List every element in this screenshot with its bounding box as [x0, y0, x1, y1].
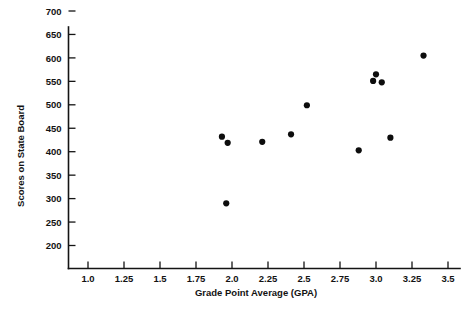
y-axis-tick-label: 550 [46, 76, 62, 87]
y-axis-tick-label: 500 [46, 99, 62, 110]
data-point [420, 52, 426, 58]
x-axis-tick-label: 1.25 [115, 273, 134, 284]
y-axis-tick-label: 700 [46, 6, 62, 17]
x-axis-tick-label: 1.0 [81, 273, 94, 284]
data-point [223, 200, 229, 206]
y-axis-tick-label: 650 [46, 29, 62, 40]
x-axis-tick-label: 2.5 [297, 273, 311, 284]
data-point [288, 131, 294, 137]
scatter-plot-figure: 200250300350400450500550600650700 1.01.2… [0, 0, 476, 315]
data-point [259, 139, 265, 145]
x-axis-tick-label: 1.75 [187, 273, 206, 284]
data-point [373, 71, 379, 77]
data-point [370, 78, 376, 84]
y-axis: 200250300350400450500550600650700 [46, 6, 76, 269]
data-point [225, 140, 231, 146]
y-axis-title: Scores on State Board [15, 105, 26, 207]
x-axis-tick-label: 1.5 [153, 273, 167, 284]
x-axis-tick-label: 2.0 [225, 273, 238, 284]
data-point [387, 135, 393, 141]
data-point [379, 79, 385, 85]
y-axis-tick-label: 600 [46, 53, 62, 64]
data-point [219, 134, 225, 140]
y-axis-tick-label: 200 [46, 240, 62, 251]
x-axis-tick-label: 3.5 [441, 273, 455, 284]
plot-canvas: 200250300350400450500550600650700 1.01.2… [0, 0, 476, 315]
data-point [304, 102, 310, 108]
x-axis-tick-label: 2.25 [259, 273, 278, 284]
x-axis-tick-label: 2.75 [331, 273, 350, 284]
y-axis-tick-label: 450 [46, 123, 62, 134]
x-axis: 1.01.251.51.752.02.252.52.753.03.253.5 [69, 262, 461, 284]
y-axis-tick-label: 400 [46, 146, 62, 157]
y-axis-tick-label: 250 [46, 217, 62, 228]
x-axis-title: Grade Point Average (GPA) [195, 287, 317, 298]
x-axis-tick-label: 3.25 [403, 273, 422, 284]
data-points-layer [219, 52, 427, 206]
y-axis-tick-label: 350 [46, 170, 62, 181]
y-axis-tick-label: 300 [46, 193, 62, 204]
x-axis-tick-label: 3.0 [369, 273, 382, 284]
data-point [356, 147, 362, 153]
